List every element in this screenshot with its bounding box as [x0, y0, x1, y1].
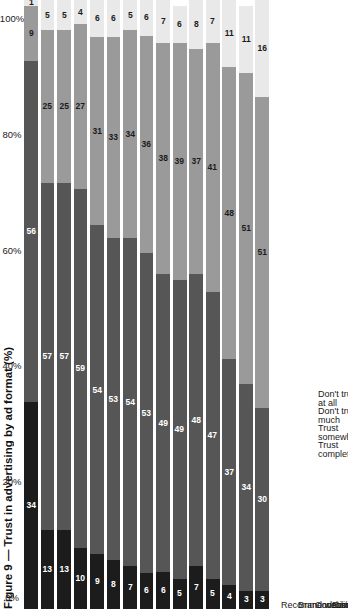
- bar-segment: 6: [156, 572, 170, 609]
- bar-segment: 7: [156, 0, 170, 43]
- bar-segment: 49: [156, 274, 170, 572]
- bar-segment: 48: [189, 274, 203, 566]
- bar-value-label: 53: [109, 395, 118, 404]
- bar-segment: 9: [90, 554, 104, 609]
- bar-segment: 8: [189, 0, 203, 49]
- legend-item: Trust completely: [318, 441, 348, 460]
- bar-segment: 6: [173, 6, 187, 43]
- bar-segment: 3: [255, 591, 269, 609]
- bar-value-label: 37: [191, 157, 200, 166]
- bar-segment: 5: [57, 0, 71, 30]
- bar-segment: 53: [107, 238, 121, 561]
- bar-value-label: 16: [258, 45, 267, 54]
- bar-segment: 34: [24, 402, 38, 609]
- bar-value-label: 34: [125, 130, 134, 139]
- bar-value-label: 39: [175, 157, 184, 166]
- bar-segment: 5: [206, 579, 220, 609]
- bar-value-label: 51: [241, 224, 250, 233]
- bar-segment: 11: [222, 0, 236, 67]
- bar-segment: 31: [90, 37, 104, 226]
- bar-value-label: 38: [158, 154, 167, 163]
- bar-value-label: 9: [28, 29, 33, 38]
- bar-segment: 57: [41, 183, 55, 530]
- bar-value-label: 33: [109, 133, 118, 142]
- bar-segment: 25: [57, 30, 71, 182]
- bar-segment: 37: [189, 49, 203, 274]
- legend-item: Trust somewhat: [318, 424, 348, 443]
- bar-value-label: 4: [78, 8, 83, 17]
- bar-segment: 4: [74, 0, 88, 24]
- bar-value-label: 3: [260, 596, 265, 605]
- legend-item: Don't trust much: [318, 407, 348, 426]
- bar-segment: 3: [239, 591, 253, 609]
- bar-segment: 34: [123, 30, 137, 237]
- bar-value-label: 1: [28, 0, 33, 6]
- bar-value-label: 6: [161, 586, 166, 595]
- bar-segment: 54: [90, 225, 104, 554]
- bar-row: 549396: [173, 0, 187, 609]
- bar-value-label: 3: [243, 596, 248, 605]
- bar-segment: 13: [41, 530, 55, 609]
- bar-value-label: 57: [59, 352, 68, 361]
- bar-value-label: 54: [92, 386, 101, 395]
- bar-segment: 25: [41, 30, 55, 182]
- bar-segment: 49: [173, 280, 187, 578]
- bar-segment: 30: [255, 408, 269, 591]
- bar-value-label: 27: [76, 102, 85, 111]
- bar-segment: 7: [123, 566, 137, 609]
- bar-segment: 8: [107, 560, 121, 609]
- bar-segment: 39: [173, 43, 187, 281]
- bar-value-label: 54: [125, 398, 134, 407]
- bar-value-label: 47: [208, 431, 217, 440]
- bar-value-label: 30: [258, 495, 267, 504]
- bar-value-label: 5: [177, 590, 182, 599]
- bar-value-label: 5: [128, 11, 133, 20]
- bar-segment: 51: [239, 73, 253, 384]
- bar-value-label: 53: [142, 409, 151, 418]
- bar-value-label: 51: [258, 249, 267, 258]
- bar-row: 345691: [24, 0, 38, 609]
- bar-segment: 5: [173, 579, 187, 609]
- bar-value-label: 49: [158, 419, 167, 428]
- bar-segment: 27: [74, 24, 88, 188]
- bar-segment: 33: [107, 37, 121, 238]
- bar-value-label: 36: [142, 140, 151, 149]
- bar-value-label: 4: [227, 593, 232, 602]
- bar-value-label: 5: [45, 11, 50, 20]
- bar-row: 853336: [107, 0, 121, 609]
- bar-segment: 16: [255, 0, 269, 97]
- bar-value-label: 37: [225, 468, 234, 477]
- bar-segment: 53: [140, 253, 154, 573]
- bar-segment: 48: [222, 67, 236, 359]
- bar-value-label: 6: [177, 20, 182, 29]
- bar-value-label: 8: [194, 20, 199, 29]
- bar-value-label: 59: [76, 364, 85, 373]
- bar-segment: 9: [24, 6, 38, 61]
- bar-segment: 41: [206, 43, 220, 293]
- bar-segment: 57: [57, 183, 71, 530]
- bar-segment: 36: [140, 36, 154, 253]
- bar-segment: 6: [140, 0, 154, 36]
- bar-value-label: 13: [59, 565, 68, 574]
- bar-value-label: 7: [128, 583, 133, 592]
- bar-value-label: 41: [208, 163, 217, 172]
- bar-value-label: 13: [43, 565, 52, 574]
- bar-row: 3345111: [239, 0, 253, 609]
- bar-segment: 34: [239, 384, 253, 591]
- bar-value-label: 49: [175, 425, 184, 434]
- bar-value-label: 5: [62, 11, 67, 20]
- bar-segment: 6: [107, 0, 121, 37]
- bar-row: 954316: [90, 0, 104, 609]
- bar-value-label: 34: [26, 501, 35, 510]
- bar-value-label: 7: [194, 583, 199, 592]
- bar-segment: 6: [90, 0, 104, 37]
- bar-row: 1059274: [74, 0, 88, 609]
- bar-row: 748378: [189, 0, 203, 609]
- bar-value-label: 25: [43, 102, 52, 111]
- bar-value-label: 7: [210, 17, 215, 26]
- bar-segment: 59: [74, 189, 88, 548]
- stacked-bars: 3456911357255135725510592749543168533367…: [24, 0, 272, 609]
- chart-title: Figure 9 — Trust in advertising by ad fo…: [2, 0, 14, 609]
- bar-value-label: 48: [225, 209, 234, 218]
- bar-segment: 1: [24, 0, 38, 6]
